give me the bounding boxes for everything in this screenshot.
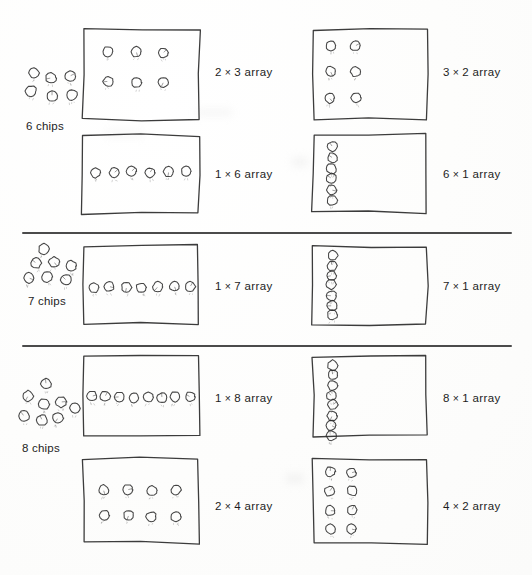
array-label-rows: 8 <box>443 392 450 404</box>
array-label-rows: 2 <box>215 500 222 512</box>
chip <box>143 392 153 406</box>
array-box-eight-2x4 <box>82 458 200 544</box>
chip <box>136 283 146 296</box>
chip <box>351 93 362 107</box>
chip <box>42 272 53 285</box>
chip <box>327 411 338 425</box>
chip <box>328 310 338 324</box>
chip <box>350 41 360 54</box>
chips-caption-eight: 8 chips <box>22 442 60 454</box>
chip <box>31 257 42 272</box>
array-label-rows: 7 <box>443 280 450 292</box>
box-outline <box>83 245 198 325</box>
chip <box>326 505 335 519</box>
array-label-cols: 7 array <box>234 280 272 292</box>
chip <box>66 260 76 275</box>
chip <box>23 390 34 404</box>
box-outline <box>313 29 429 120</box>
array-label-rows: 1 <box>215 168 222 180</box>
chip <box>146 512 156 526</box>
multiplication-sign-icon: × <box>222 280 234 292</box>
chip <box>36 415 47 429</box>
chip <box>129 393 139 407</box>
chip <box>326 66 336 80</box>
box-outline <box>312 246 429 326</box>
chip <box>186 281 196 295</box>
section-divider <box>22 345 512 347</box>
multiplication-sign-icon: × <box>450 168 462 180</box>
array-label-rows: 4 <box>443 500 450 512</box>
array-label-rows: 2 <box>215 66 222 78</box>
chip <box>326 524 336 538</box>
array-label-six-2x3: 2×3 array <box>215 66 272 78</box>
chip <box>325 486 335 499</box>
chip <box>122 282 132 296</box>
box-outline <box>312 356 427 438</box>
array-box-seven-7x1 <box>312 245 428 325</box>
chip <box>348 506 357 519</box>
array-label-cols: 1 array <box>462 392 500 404</box>
chip <box>124 511 133 524</box>
array-label-cols: 4 array <box>234 500 272 512</box>
chip <box>147 486 157 500</box>
chip <box>24 272 34 287</box>
box-outline <box>312 133 427 213</box>
chip <box>48 256 60 271</box>
array-box-six-2x3 <box>82 28 200 120</box>
chip <box>325 93 335 108</box>
chip <box>60 275 71 290</box>
chip <box>109 168 119 183</box>
chip <box>157 393 167 408</box>
array-label-cols: 2 array <box>462 66 500 78</box>
chip <box>329 250 339 264</box>
chip <box>103 47 113 61</box>
array-label-cols: 8 array <box>234 392 272 404</box>
chips-caption-six: 6 chips <box>26 120 64 132</box>
chip-cluster-six <box>24 64 82 114</box>
array-label-eight-4x2: 4×2 array <box>443 500 500 512</box>
array-label-eight-1x8: 1×8 array <box>215 392 272 404</box>
array-label-six-6x1: 6×1 array <box>443 168 500 180</box>
chip <box>53 413 64 428</box>
multiplication-sign-icon: × <box>450 66 462 78</box>
chip <box>46 73 57 87</box>
chip <box>171 485 181 498</box>
array-box-eight-1x8 <box>82 355 200 437</box>
chip-cluster-eight <box>20 378 86 436</box>
chip <box>171 512 181 526</box>
chip <box>131 46 141 60</box>
chip <box>65 71 76 86</box>
chip <box>67 90 77 105</box>
chip <box>186 392 196 406</box>
chip <box>347 524 357 538</box>
chip <box>326 467 336 481</box>
chip <box>38 399 50 413</box>
chip <box>29 68 40 82</box>
chip <box>169 281 179 295</box>
chip-cluster-seven <box>26 243 82 289</box>
chip <box>114 392 124 406</box>
chip <box>99 484 109 499</box>
chip <box>158 49 168 62</box>
chip <box>348 486 357 500</box>
box-outline <box>82 29 200 121</box>
array-box-eight-8x1 <box>312 355 428 437</box>
array-label-seven-1x7: 1×7 array <box>215 280 272 292</box>
chip <box>153 281 163 296</box>
chip <box>158 78 168 91</box>
multiplication-sign-icon: × <box>222 392 234 404</box>
chip <box>123 485 133 498</box>
multiplication-sign-icon: × <box>450 392 462 404</box>
array-box-six-3x2 <box>312 28 428 120</box>
array-label-eight-8x1: 8×1 array <box>443 392 500 404</box>
chip <box>47 91 57 105</box>
chips-caption-seven: 7 chips <box>28 295 66 307</box>
array-label-eight-2x4: 2×4 array <box>215 500 272 512</box>
chip <box>99 511 109 524</box>
chip <box>87 391 97 405</box>
chip <box>55 397 67 411</box>
array-box-six-6x1 <box>312 134 428 214</box>
multiplication-sign-icon: × <box>222 500 234 512</box>
multiplication-sign-icon: × <box>222 168 234 180</box>
multiplication-sign-icon: × <box>450 280 462 292</box>
